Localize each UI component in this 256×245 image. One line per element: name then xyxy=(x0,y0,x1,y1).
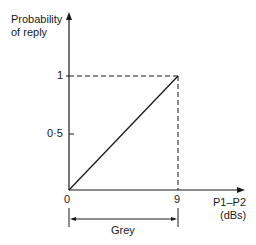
y-axis-label-line1: Probability xyxy=(11,13,62,26)
bracket-left-arrow-icon xyxy=(70,217,76,221)
origin-label: 0 xyxy=(64,193,70,206)
grey-span-label: Grey xyxy=(111,224,135,237)
y-axis-arrow-icon xyxy=(66,12,72,20)
x-axis-arrow-icon xyxy=(237,187,245,193)
bracket-right-arrow-icon xyxy=(171,217,177,221)
y-axis-label-line2: of reply xyxy=(11,26,47,39)
series-line xyxy=(69,76,178,190)
x-tick-label-9: 9 xyxy=(174,193,180,206)
x-axis-label-line2: (dBs) xyxy=(220,209,246,222)
y-tick-label-0.5: 0·5 xyxy=(47,127,63,140)
x-axis-label-line1: P1–P2 xyxy=(213,196,246,209)
y-tick-label-1: 1 xyxy=(57,69,63,82)
